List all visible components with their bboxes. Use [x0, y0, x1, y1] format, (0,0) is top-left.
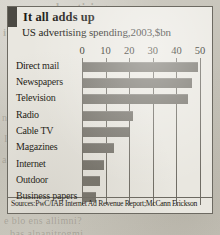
category-label: Newspapers	[16, 76, 63, 87]
x-tick-label: 50	[195, 45, 206, 56]
x-tick-label: 10	[100, 45, 111, 56]
bar	[83, 111, 133, 121]
chart-subtitle: US advertising spending,2003,$bn	[22, 26, 171, 38]
bar	[83, 62, 198, 72]
x-tick-label: 40	[171, 45, 182, 56]
category-label: Television	[16, 92, 56, 103]
bar	[83, 176, 100, 186]
category-label: Internet	[16, 158, 46, 169]
chart-card: It all adds up US advertising spending,2…	[7, 6, 213, 214]
x-tick-label: 20	[124, 45, 135, 56]
category-label: Magazines	[16, 141, 58, 152]
bar	[83, 94, 188, 104]
bar	[83, 143, 114, 153]
x-axis-tick-labels: 01020304050	[82, 45, 200, 58]
x-tick-label: 0	[79, 45, 84, 56]
background-bleed-text: e blo ens allimni?	[4, 215, 82, 226]
plot-area	[82, 58, 200, 205]
category-label: Radio	[16, 109, 39, 120]
category-label: Direct mail	[16, 60, 59, 71]
category-label: Outdoor	[16, 174, 48, 185]
bar	[83, 127, 129, 137]
bar	[83, 160, 104, 170]
background-bleed-text: bas alnanitrogmi	[10, 228, 83, 235]
chart-title: It all adds up	[23, 10, 95, 25]
category-label: Business papers	[16, 190, 77, 201]
bar	[83, 78, 192, 88]
x-tick-label: 30	[148, 45, 159, 56]
gridline-50	[200, 58, 201, 205]
accent-tab	[8, 7, 17, 27]
page-background: advertising spen ing ditnesitievbs noug …	[0, 0, 220, 235]
category-label: Cable TV	[16, 125, 53, 136]
